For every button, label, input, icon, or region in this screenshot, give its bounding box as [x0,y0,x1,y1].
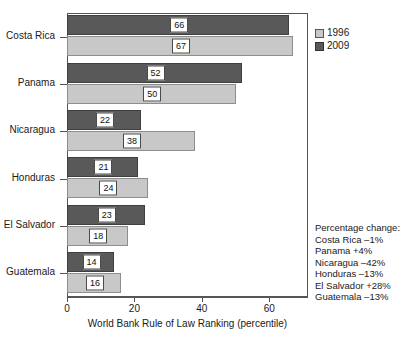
legend: 19962009 [315,27,349,53]
bar-honduras-1996: 24 [67,178,148,198]
bar-nicaragua-1996: 38 [67,131,195,151]
category-label-el-salvador: El Salvador [0,219,67,230]
bar-panama-2009: 52 [67,63,242,83]
x-tick [202,297,203,302]
bar-nicaragua-2009: 22 [67,110,141,130]
annotation-line: El Salvador +28% [315,280,400,292]
legend-label: 1996 [327,28,349,38]
annotation-line: Panama +4% [315,245,400,257]
bar-value-label: 38 [123,133,141,148]
annotation-line: Guatemala –13% [315,291,400,303]
annotation-line: Honduras –13% [315,268,400,280]
percentage-change-note: Percentage change:Costa Rica –1%Panama +… [315,222,400,303]
bar-value-label: 23 [98,207,116,222]
legend-label: 2009 [327,41,349,51]
x-tick [67,297,68,302]
x-tick-label: 60 [264,303,275,314]
category-label-honduras: Honduras [0,172,67,183]
bar-guatemala-1996: 16 [67,273,121,293]
legend-swatch-1996 [315,29,324,38]
bar-value-label: 18 [89,228,107,243]
legend-item-2009[interactable]: 2009 [315,40,349,52]
category-label-costa-rica: Costa Rica [0,30,67,41]
bar-honduras-2009: 21 [67,157,138,177]
bar-value-label: 24 [99,181,117,196]
bar-costa-rica-1996: 67 [67,36,293,56]
legend-swatch-2009 [315,42,324,51]
bar-value-label: 14 [83,254,101,269]
bar-costa-rica-2009: 66 [67,15,289,35]
bar-chart: Costa RicaPanamaNicaraguaHondurasEl Salv… [0,0,414,338]
x-tick [269,297,270,302]
x-axis-line [67,297,308,298]
bar-value-label: 66 [170,18,188,33]
annotation-heading: Percentage change: [315,222,400,234]
bar-panama-1996: 50 [67,84,236,104]
category-label-panama: Panama [0,77,67,88]
legend-item-1996[interactable]: 1996 [315,27,349,39]
annotation-line: Nicaragua –42% [315,257,400,269]
x-tick-label: 40 [196,303,207,314]
category-label-guatemala: Guatemala [0,266,67,277]
x-axis-title: World Bank Rule of Law Ranking (percenti… [67,318,308,329]
bar-value-label: 16 [86,275,104,290]
bar-value-label: 22 [96,112,114,127]
bar-value-label: 50 [143,86,161,101]
bar-value-label: 21 [94,160,112,175]
annotation-line: Costa Rica –1% [315,234,400,246]
bar-guatemala-2009: 14 [67,252,114,272]
bar-value-label: 52 [147,65,165,80]
x-tick-label: 0 [64,303,70,314]
x-tick-label: 20 [129,303,140,314]
bar-el-salvador-1996: 18 [67,226,128,246]
x-tick [134,297,135,302]
bar-el-salvador-2009: 23 [67,205,145,225]
category-label-nicaragua: Nicaragua [0,124,67,135]
bar-value-label: 67 [172,39,190,54]
